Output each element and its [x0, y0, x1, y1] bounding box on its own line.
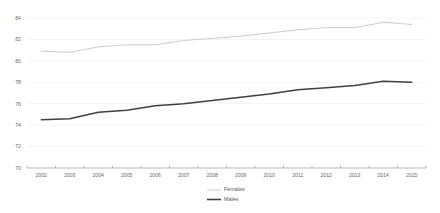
x-axis-tick-label: 2011 — [292, 172, 303, 178]
line-chart: 7072747678808284 20022003200420052006200… — [0, 0, 440, 213]
x-axis-tick-label: 2010 — [263, 172, 275, 178]
x-axis-tick-label: 2008 — [206, 172, 218, 178]
y-axis-tick-label: 84 — [15, 15, 21, 21]
y-axis-tick-label: 74 — [15, 122, 21, 128]
y-axis-tick-label: 82 — [15, 36, 21, 42]
y-axis-tick-label: 78 — [15, 79, 21, 85]
x-axis-tick-label: 2002 — [35, 172, 47, 178]
chart-canvas: 7072747678808284 20022003200420052006200… — [0, 0, 440, 213]
y-axis-tick-label: 80 — [15, 58, 21, 64]
legend-label-males: Males — [224, 196, 239, 202]
x-axis-tick-label: 2014 — [377, 172, 389, 178]
x-axis-tick-label: 2015 — [406, 172, 418, 178]
legend-label-females: Females — [224, 186, 245, 192]
x-axis-tick-label: 2004 — [92, 172, 104, 178]
x-axis-tick-label: 2005 — [121, 172, 133, 178]
y-axis-tick-label: 76 — [15, 101, 21, 107]
x-axis-tick-label: 2012 — [320, 172, 332, 178]
x-axis-tick-label: 2007 — [178, 172, 190, 178]
x-axis-tick-label: 2009 — [235, 172, 247, 178]
x-axis-tick-label: 2013 — [349, 172, 361, 178]
chart-background — [0, 0, 440, 213]
y-axis-tick-label: 70 — [15, 165, 21, 171]
x-axis-tick-label: 2006 — [149, 172, 161, 178]
y-axis-tick-label: 72 — [15, 143, 21, 149]
x-axis-tick-label: 2003 — [64, 172, 76, 178]
